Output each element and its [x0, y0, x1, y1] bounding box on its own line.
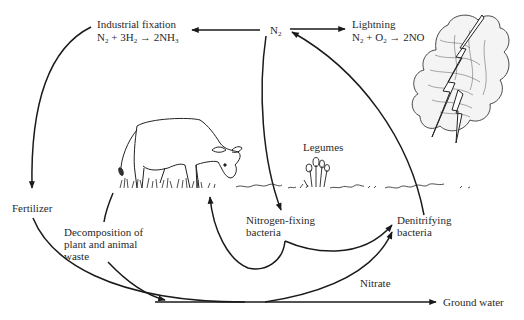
legumes-illustration	[304, 158, 330, 188]
diagram-graphics	[0, 0, 524, 320]
decomposition-label: Decomposition of plant and animal waste	[64, 226, 143, 262]
nitrogen-fixing-line-1: Nitrogen-fixing	[246, 214, 315, 226]
eq-subscript: 3	[175, 37, 179, 45]
ground-water-label: Ground water	[443, 296, 504, 308]
lightning-equation: N2 + O2 → 2NO	[352, 31, 425, 47]
eq-term: O	[375, 31, 383, 43]
nitrate-label: Nitrate	[360, 277, 391, 289]
n2-subscript: 2	[278, 30, 282, 38]
eq-term: N	[97, 31, 105, 43]
nitrogen-cycle-diagram: Industrial fixation N2 + 3H2 → 2NH3 N2 L…	[0, 0, 524, 320]
arrow-industrial-to-fertilizer	[32, 27, 91, 188]
arrow-plants-to-decomposition	[104, 193, 113, 222]
n2-label: N	[270, 24, 278, 36]
eq-term: 3H	[120, 31, 133, 43]
eq-plus: +	[108, 31, 120, 43]
lightning-title: Lightning	[352, 18, 395, 30]
eq-term: N	[352, 31, 360, 43]
nitrogen-fixing-bacteria-label: Nitrogen-fixing bacteria	[246, 214, 315, 238]
eq-arrow: →	[137, 31, 154, 43]
nitrogen-fixing-line-2: bacteria	[246, 226, 315, 238]
denitrifying-bacteria-label: Denitrifying bacteria	[397, 214, 451, 238]
denitrifying-line-2: bacteria	[397, 226, 451, 238]
legumes-label: Legumes	[303, 141, 343, 153]
industrial-fixation-equation: N2 + 3H2 → 2NH3	[97, 31, 179, 47]
eq-term: 2NH	[154, 31, 175, 43]
denitrifying-line-1: Denitrifying	[397, 214, 451, 226]
industrial-fixation-title: Industrial fixation	[97, 18, 176, 30]
arrow-nitrate-to-denitrifying	[265, 232, 392, 302]
n2-node: N2	[270, 24, 281, 40]
eq-plus: +	[363, 31, 375, 43]
decomposition-line-3: waste	[64, 250, 143, 262]
fertilizer-label: Fertilizer	[12, 202, 52, 214]
eq-arrow: →	[387, 31, 404, 43]
cow-illustration	[119, 118, 242, 188]
decomposition-line-2: plant and animal	[64, 238, 143, 250]
decomposition-line-1: Decomposition of	[64, 226, 143, 238]
arrow-denitrifying-to-n2	[292, 32, 424, 215]
eq-term: 2NO	[403, 31, 424, 43]
